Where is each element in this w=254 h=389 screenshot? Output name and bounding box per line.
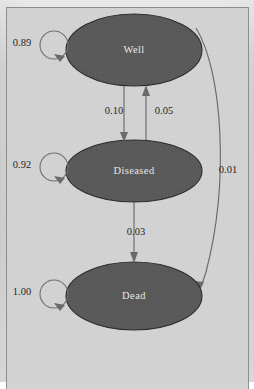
node-dead-label: Dead — [122, 290, 146, 301]
self-loop-dead — [40, 280, 68, 311]
self-loop-diseased-circle — [40, 153, 68, 181]
self-loop-diseased — [40, 153, 68, 184]
edge-diseased-to-well-label: 0.05 — [155, 105, 173, 116]
edge-diseased-to-well-arrowhead — [142, 85, 150, 96]
edge-diseased-to-dead-arrowhead — [130, 252, 138, 263]
edge-diseased-to-dead-label: 0.03 — [127, 226, 145, 237]
edge-well-to-dead-path — [196, 28, 220, 290]
self-loop-dead-circle — [40, 280, 68, 308]
self-loop-dead-label: 1.00 — [13, 286, 31, 297]
self-loop-diseased-label: 0.92 — [13, 159, 31, 170]
node-well-label: Well — [123, 44, 144, 55]
self-loop-well-label: 0.89 — [13, 37, 31, 48]
self-loop-well-circle — [40, 31, 68, 59]
self-loop-well — [40, 31, 68, 62]
node-well[interactable]: Well — [66, 14, 202, 86]
edge-well-to-diseased-label: 0.10 — [105, 105, 123, 116]
edge-diseased-to-well — [142, 85, 150, 140]
node-diseased[interactable]: Diseased — [66, 140, 202, 202]
edge-well-to-dead-label: 0.01 — [219, 164, 237, 175]
node-diseased-label: Diseased — [113, 165, 154, 176]
node-dead[interactable]: Dead — [66, 262, 202, 330]
